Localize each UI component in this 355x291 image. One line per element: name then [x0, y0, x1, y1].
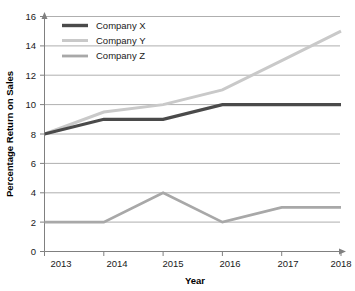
series-line-company-x [45, 105, 342, 134]
legend-label-company-z: Company Z [96, 50, 145, 61]
y-tick-label-2: 2 [31, 217, 36, 228]
series-line-company-y [45, 31, 342, 134]
series-line-company-z [45, 193, 342, 222]
y-tick-label-8: 8 [31, 129, 36, 140]
x-tick-label-2015: 2015 [162, 258, 183, 269]
x-tick-label-2017: 2017 [277, 258, 298, 269]
legend-label-company-x: Company X [96, 20, 146, 31]
y-tick-label-4: 4 [31, 187, 36, 198]
x-tick-label-2013: 2013 [50, 258, 71, 269]
y-tick-label-0: 0 [31, 246, 36, 257]
y-tick-label-16: 16 [25, 11, 36, 22]
line-chart: 16 14 12 10 8 6 4 2 0 Percentage Return … [0, 0, 355, 291]
x-tick-label-2014: 2014 [106, 258, 127, 269]
y-axis-arrow-icon [42, 12, 48, 19]
y-tick-label-6: 6 [31, 158, 36, 169]
gridlines [44, 17, 340, 223]
x-axis-arrow-icon [339, 249, 346, 255]
y-tick-label-14: 14 [25, 40, 36, 51]
legend-label-company-y: Company Y [96, 35, 146, 46]
x-axis: 2013 2014 2015 2016 2017 2018 Year [45, 249, 352, 287]
y-tick-label-10: 10 [25, 99, 36, 110]
x-tick-label-2018: 2018 [330, 258, 351, 269]
y-axis-title: Percentage Return on Sales [4, 71, 15, 197]
x-tick-label-2016: 2016 [219, 258, 240, 269]
series-group [45, 31, 342, 222]
y-tick-label-12: 12 [25, 70, 36, 81]
y-axis: 16 14 12 10 8 6 4 2 0 Percentage Return … [4, 11, 48, 257]
legend: Company X Company Y Company Z [62, 20, 146, 62]
chart-container: 16 14 12 10 8 6 4 2 0 Percentage Return … [0, 0, 355, 291]
x-axis-title: Year [185, 275, 205, 286]
